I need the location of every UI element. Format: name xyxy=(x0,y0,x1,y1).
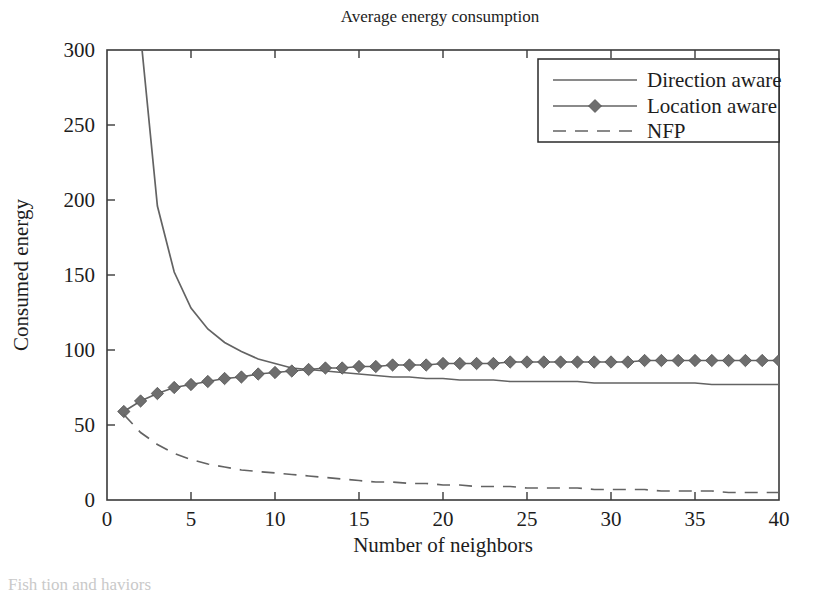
y-axis-tick-labels: 050100150200250300 xyxy=(64,38,96,512)
x-tick-label: 20 xyxy=(433,507,454,531)
data-point-marker xyxy=(302,363,314,375)
data-point-marker xyxy=(571,356,583,368)
x-tick-label: 30 xyxy=(601,507,622,531)
data-point-marker xyxy=(437,357,449,369)
y-tick-label: 0 xyxy=(85,488,96,512)
data-point-marker xyxy=(638,354,650,366)
y-axis-ticks xyxy=(107,125,115,425)
data-point-marker xyxy=(487,357,499,369)
x-tick-label: 5 xyxy=(186,507,197,531)
y-tick-label: 250 xyxy=(64,113,96,137)
data-point-marker xyxy=(134,395,146,407)
y-tick-label: 200 xyxy=(64,188,96,212)
data-point-marker xyxy=(689,354,701,366)
data-point-marker xyxy=(605,356,617,368)
y-axis-title: Consumed energy xyxy=(9,199,33,351)
data-point-marker xyxy=(370,360,382,372)
legend-label-nfp: NFP xyxy=(647,119,686,143)
data-point-marker xyxy=(235,371,247,383)
data-point-marker xyxy=(655,354,667,366)
data-point-marker xyxy=(521,356,533,368)
data-point-marker xyxy=(538,356,550,368)
chart-title: Average energy consumption xyxy=(341,7,540,26)
x-tick-label: 40 xyxy=(769,507,790,531)
y-tick-label: 50 xyxy=(74,413,95,437)
data-point-marker xyxy=(706,354,718,366)
data-point-marker xyxy=(588,356,600,368)
figure-container: Average energy consumption 0510152025303… xyxy=(0,0,817,594)
data-point-marker xyxy=(504,356,516,368)
data-point-marker xyxy=(202,375,214,387)
x-axis-title: Number of neighbors xyxy=(353,533,533,557)
data-point-marker xyxy=(269,366,281,378)
series-direction-aware xyxy=(124,0,779,385)
data-point-marker xyxy=(722,354,734,366)
series-line xyxy=(124,415,779,493)
y-tick-label: 100 xyxy=(64,338,96,362)
y-tick-label: 300 xyxy=(64,38,96,62)
data-point-marker xyxy=(168,381,180,393)
data-point-marker xyxy=(756,354,768,366)
data-point-marker xyxy=(622,356,634,368)
x-tick-label: 10 xyxy=(265,507,286,531)
x-axis-tick-labels: 0510152025303540 xyxy=(102,507,790,531)
legend-label-direction-aware: Direction aware xyxy=(647,68,782,92)
data-point-marker xyxy=(118,405,130,417)
data-point-marker xyxy=(252,368,264,380)
data-point-marker xyxy=(403,359,415,371)
x-tick-label: 15 xyxy=(349,507,370,531)
series-nfp xyxy=(124,415,779,493)
data-point-marker xyxy=(185,378,197,390)
y-tick-label: 150 xyxy=(64,263,96,287)
series-line xyxy=(124,0,779,385)
data-point-marker xyxy=(319,362,331,374)
data-point-marker xyxy=(386,359,398,371)
data-point-marker xyxy=(773,354,785,366)
data-point-marker xyxy=(739,354,751,366)
x-tick-label: 0 xyxy=(102,507,113,531)
data-point-marker xyxy=(554,356,566,368)
data-point-marker xyxy=(353,360,365,372)
series-line xyxy=(124,361,779,412)
data-point-marker xyxy=(151,387,163,399)
data-point-marker xyxy=(218,372,230,384)
series-location-aware xyxy=(118,354,786,417)
data-point-marker xyxy=(454,357,466,369)
legend: Direction aware Location aware NFP xyxy=(538,59,782,143)
legend-label-location-aware: Location aware xyxy=(647,94,777,118)
x-tick-label: 25 xyxy=(517,507,538,531)
data-point-marker xyxy=(420,359,432,371)
x-tick-label: 35 xyxy=(685,507,706,531)
data-point-marker xyxy=(672,354,684,366)
energy-consumption-chart: Average energy consumption 0510152025303… xyxy=(0,0,817,594)
caption-fragment: Fish tion and haviors xyxy=(8,575,151,594)
data-point-marker xyxy=(470,357,482,369)
